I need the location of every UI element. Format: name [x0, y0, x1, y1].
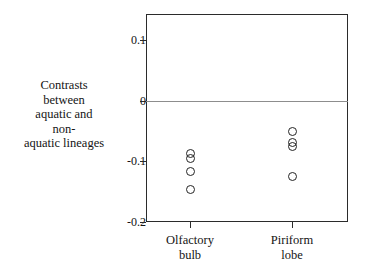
- y-tick-0.1: 0.1: [96, 34, 146, 46]
- x-tick-label-olfactory-bulb: Olfactory bulb: [135, 233, 245, 262]
- y-axis-label-line-1: Contrasts: [8, 78, 120, 93]
- x-tick-mark-olfactory-bulb: [190, 222, 191, 228]
- data-point: [186, 185, 195, 194]
- data-point: [186, 167, 195, 176]
- zero-reference-line: [146, 101, 348, 102]
- y-tick-mark-0.1: [140, 40, 146, 41]
- x-tick-label-piriform-lobe-line-2: lobe: [237, 248, 347, 263]
- y-axis-label: Contrasts between aquatic and non- aquat…: [8, 78, 120, 151]
- y-axis-label-line-3: aquatic and: [8, 107, 120, 122]
- x-tick-label-piriform-lobe-line-1: Piriform: [237, 233, 347, 248]
- x-tick-label-olfactory-bulb-line-1: Olfactory: [135, 233, 245, 248]
- y-tick-mark-0: [140, 101, 146, 102]
- data-point: [288, 127, 297, 136]
- x-tick-label-olfactory-bulb-line-2: bulb: [135, 248, 245, 263]
- data-point: [186, 154, 195, 163]
- y-tick-mark--0.1: [140, 161, 146, 162]
- x-tick-label-piriform-lobe: Piriform lobe: [237, 233, 347, 262]
- data-point: [288, 172, 297, 181]
- y-axis-label-line-4: non-: [8, 122, 120, 137]
- scatter-plot-figure: Contrasts between aquatic and non- aquat…: [0, 0, 366, 278]
- plot-area: [146, 14, 348, 222]
- y-tick--0.2: -0.2: [96, 216, 146, 228]
- y-tick-0: 0: [96, 95, 146, 107]
- y-tick--0.1: -0.1: [96, 155, 146, 167]
- y-axis-label-line-5: aquatic lineages: [8, 136, 120, 151]
- y-tick-mark--0.2: [140, 222, 146, 223]
- x-tick-mark-piriform-lobe: [292, 222, 293, 228]
- data-point: [288, 142, 297, 151]
